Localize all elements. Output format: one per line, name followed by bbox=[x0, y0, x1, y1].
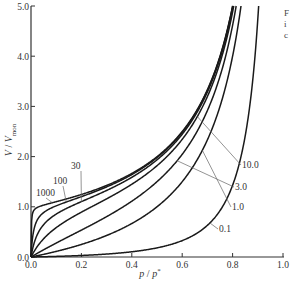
y-tick-label: 1.0 bbox=[17, 202, 29, 212]
y-tick-label: 4.0 bbox=[17, 52, 29, 62]
curve-label-c-10.0: 10.0 bbox=[242, 160, 259, 170]
curve-labels: 10001003010.03.01.00.1 bbox=[36, 117, 259, 234]
isotherm-curve-c-100 bbox=[31, 6, 233, 257]
side-caption-line-1: F bbox=[284, 8, 289, 18]
bet-isotherm-chart: 0.01.02.03.04.05.0 0.00.20.40.60.81.0 10… bbox=[0, 0, 291, 282]
leader-line bbox=[197, 117, 241, 165]
isotherm-curve-c-3.0 bbox=[31, 6, 236, 257]
isotherm-curves bbox=[31, 6, 259, 257]
leader-line bbox=[177, 161, 234, 187]
curve-label-c-1000: 1000 bbox=[36, 188, 55, 198]
leader-line bbox=[46, 198, 52, 203]
x-tick-label: 0.2 bbox=[75, 260, 87, 270]
y-axis-label: V / Vmon bbox=[3, 123, 18, 156]
curve-label-c-3.0: 3.0 bbox=[235, 182, 247, 192]
curve-label-c-0.1: 0.1 bbox=[219, 224, 231, 234]
curve-label-c-30: 30 bbox=[71, 161, 81, 171]
leader-line bbox=[202, 150, 231, 207]
x-tick-label: 0.8 bbox=[227, 260, 239, 270]
x-tick-label: 0.0 bbox=[25, 260, 37, 270]
isotherm-curve-c-1000 bbox=[31, 6, 233, 257]
x-tick-label: 0.4 bbox=[126, 260, 138, 270]
x-tick-label: 0.6 bbox=[176, 260, 188, 270]
y-tick-label: 3.0 bbox=[17, 102, 29, 112]
side-caption-line-2: i bbox=[284, 19, 287, 29]
curve-label-c-1.0: 1.0 bbox=[232, 202, 244, 212]
isotherm-curve-c-30 bbox=[31, 6, 233, 257]
curve-label-c-100: 100 bbox=[53, 176, 68, 186]
x-tick-label: 1.0 bbox=[277, 260, 289, 270]
side-caption-line-3: c bbox=[284, 30, 288, 40]
x-axis-label: p / p* bbox=[138, 267, 161, 279]
isotherm-curve-c-1.0 bbox=[31, 6, 241, 257]
y-tick-label: 2.0 bbox=[17, 152, 29, 162]
leader-line bbox=[210, 223, 218, 229]
side-caption: F i c bbox=[284, 8, 289, 40]
isotherm-curve-c-10.0 bbox=[31, 6, 234, 257]
y-tick-label: 5.0 bbox=[17, 2, 29, 12]
